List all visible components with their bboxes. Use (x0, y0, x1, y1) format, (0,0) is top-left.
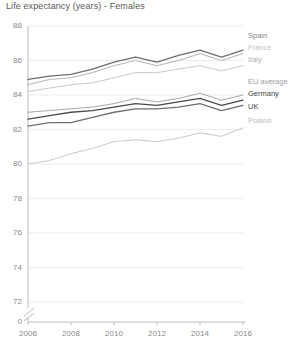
y-axis-tick-label: 80 (2, 160, 22, 168)
legend-item-uk: UK (248, 103, 258, 111)
series-line-poland (28, 128, 243, 164)
legend-item-italy: Italy (248, 56, 262, 64)
x-axis-tick-label: 2008 (51, 330, 91, 338)
legend-item-france: France (248, 44, 271, 52)
y-axis-tick-label: 76 (2, 229, 22, 237)
y-axis-tick-label: 82 (2, 126, 22, 134)
y-axis-tick-label-zero: 0 (2, 318, 22, 326)
y-axis-tick-label: 78 (2, 195, 22, 203)
series-line-uk (28, 104, 243, 126)
legend-item-germany: Germany (248, 90, 279, 98)
y-axis-tick-label: 84 (2, 91, 22, 99)
x-axis-tick-label: 2010 (94, 330, 134, 338)
series-line-spain (28, 50, 243, 79)
x-axis-tick-label: 2012 (137, 330, 177, 338)
y-axis-tick-label: 86 (2, 57, 22, 65)
legend-item-spain: Spain (248, 32, 267, 40)
legend-item-eu-average: EU average (248, 78, 288, 86)
x-axis-tick-label: 2006 (8, 330, 48, 338)
x-axis-tick-label: 2016 (223, 330, 263, 338)
series-line-france (28, 54, 243, 85)
y-axis-tick-label: 88 (2, 22, 22, 30)
chart-container: Life expectancy (years) - Females 888684… (0, 0, 306, 346)
y-axis-tick-label: 74 (2, 264, 22, 272)
y-axis-tick-label: 72 (2, 298, 22, 306)
x-axis-tick-label: 2014 (180, 330, 220, 338)
legend-item-poland: Poland (248, 117, 271, 125)
